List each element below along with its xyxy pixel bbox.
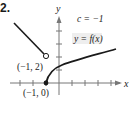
c-value-label: c = −1 — [77, 14, 104, 24]
open-point-label: (−1, 2) — [17, 62, 43, 73]
closed-point-label: (−1, 0) — [23, 88, 49, 99]
graph: x y (−1, 2) (−1, 0) c = −1 y = f(x) — [0, 0, 136, 128]
closed-point-marker — [44, 81, 49, 86]
y-axis-label: y — [55, 3, 61, 14]
open-point-marker — [43, 53, 48, 58]
right-piece-curve — [46, 49, 116, 83]
function-label: y = f(x) — [73, 34, 103, 45]
x-axis-label: x — [123, 78, 129, 89]
x-axis-arrow-icon — [115, 81, 122, 86]
y-axis: y — [55, 3, 62, 95]
left-piece-line — [14, 23, 44, 54]
y-axis-arrow-icon — [57, 16, 62, 23]
